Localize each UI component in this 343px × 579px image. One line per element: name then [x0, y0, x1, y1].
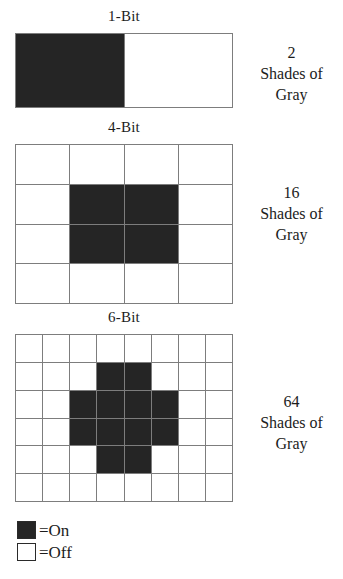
- shades-line3-1bit: Gray: [240, 84, 343, 105]
- pixel-cell: [43, 446, 70, 474]
- pixel-cell: [152, 335, 179, 363]
- legend-row-on: =On: [17, 519, 167, 541]
- pixel-cell: [152, 474, 179, 502]
- pixel-cell: [125, 335, 152, 363]
- pixel-cell: [125, 446, 152, 474]
- pixel-cell: [16, 363, 43, 391]
- shades-line2-1bit: Shades of: [240, 63, 343, 84]
- pixel-cell: [16, 446, 43, 474]
- shades-label-4bit: 16 Shades of Gray: [240, 182, 343, 245]
- legend-label-off: =Off: [39, 543, 72, 562]
- pixel-grid-6bit: [15, 334, 233, 502]
- pixel-cell: [16, 145, 70, 185]
- pixel-cell: [152, 419, 179, 447]
- shades-line3-6bit: Gray: [240, 433, 343, 454]
- pixel-cell: [16, 335, 43, 363]
- pixel-cell: [152, 363, 179, 391]
- pixel-cell: [125, 419, 152, 447]
- pixel-cell: [152, 391, 179, 419]
- pixel-cell: [70, 363, 97, 391]
- pixel-cell: [70, 446, 97, 474]
- pixel-cell: [206, 335, 233, 363]
- pixel-cell: [70, 391, 97, 419]
- pixel-cell: [125, 34, 234, 108]
- shades-line3-4bit: Gray: [240, 224, 343, 245]
- pixel-cell: [206, 391, 233, 419]
- pixel-cell: [179, 363, 206, 391]
- section-title-6bit: 6-Bit: [15, 309, 233, 326]
- pixel-cell: [70, 419, 97, 447]
- bit-depth-figure: 1-Bit 2 Shades of Gray 4-Bit 16 Shades o…: [0, 0, 343, 579]
- pixel-cell: [179, 446, 206, 474]
- shades-count-1bit: 2: [240, 42, 343, 63]
- pixel-cell: [125, 363, 152, 391]
- pixel-cell: [43, 391, 70, 419]
- pixel-cell: [97, 391, 124, 419]
- pixel-cell: [70, 225, 124, 265]
- shades-line2-4bit: Shades of: [240, 203, 343, 224]
- shades-count-6bit: 64: [240, 391, 343, 412]
- shades-label-1bit: 2 Shades of Gray: [240, 42, 343, 105]
- pixel-cell: [125, 264, 179, 304]
- pixel-cell: [206, 363, 233, 391]
- pixel-cell: [179, 264, 233, 304]
- pixel-cell: [70, 185, 124, 225]
- pixel-cell: [125, 474, 152, 502]
- pixel-cell: [179, 391, 206, 419]
- pixel-cell: [125, 391, 152, 419]
- shades-line2-6bit: Shades of: [240, 412, 343, 433]
- pixel-cell: [97, 363, 124, 391]
- pixel-cell: [179, 335, 206, 363]
- section-title-1bit: 1-Bit: [15, 8, 233, 25]
- pixel-cell: [16, 391, 43, 419]
- pixel-grid-4bit: [15, 144, 233, 304]
- pixel-cell: [43, 363, 70, 391]
- pixel-cell: [206, 446, 233, 474]
- pixel-grid-1bit: [15, 33, 233, 108]
- pixel-cell: [179, 419, 206, 447]
- shades-label-6bit: 64 Shades of Gray: [240, 391, 343, 454]
- pixel-cell: [16, 225, 70, 265]
- legend-swatch-on-icon: [17, 521, 36, 539]
- pixel-cell: [16, 264, 70, 304]
- pixel-cell: [43, 474, 70, 502]
- pixel-cell: [43, 335, 70, 363]
- legend-label-on: =On: [39, 521, 69, 540]
- legend-swatch-off-icon: [17, 543, 36, 561]
- pixel-cell: [206, 474, 233, 502]
- pixel-cell: [70, 474, 97, 502]
- legend-row-off: =Off: [17, 541, 167, 563]
- pixel-cell: [152, 446, 179, 474]
- pixel-cell: [16, 474, 43, 502]
- pixel-cell: [16, 185, 70, 225]
- pixel-cell: [97, 474, 124, 502]
- legend: =On =Off: [17, 519, 167, 563]
- pixel-cell: [125, 185, 179, 225]
- pixel-cell: [97, 335, 124, 363]
- pixel-cell: [70, 145, 124, 185]
- pixel-cell: [70, 335, 97, 363]
- pixel-cell: [179, 145, 233, 185]
- pixel-cell: [16, 34, 125, 108]
- pixel-cell: [125, 225, 179, 265]
- pixel-cell: [16, 419, 43, 447]
- pixel-cell: [125, 145, 179, 185]
- pixel-cell: [70, 264, 124, 304]
- pixel-cell: [179, 225, 233, 265]
- pixel-cell: [97, 419, 124, 447]
- shades-count-4bit: 16: [240, 182, 343, 203]
- pixel-cell: [179, 185, 233, 225]
- pixel-cell: [179, 474, 206, 502]
- pixel-cell: [97, 446, 124, 474]
- pixel-cell: [206, 419, 233, 447]
- pixel-cell: [43, 419, 70, 447]
- section-title-4bit: 4-Bit: [15, 119, 233, 136]
